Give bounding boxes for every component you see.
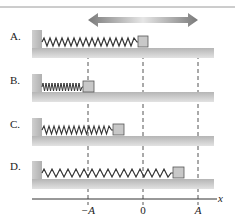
- floor: [32, 92, 214, 102]
- floor: [32, 179, 214, 189]
- floor: [32, 48, 214, 58]
- floor: [32, 136, 214, 146]
- x-axis: x −A 0 A: [32, 192, 223, 216]
- tick-minus-a: −A: [81, 204, 95, 216]
- block: [173, 167, 184, 178]
- row-b: B.: [10, 74, 214, 102]
- spring: [42, 83, 83, 91]
- spring: [42, 38, 138, 46]
- x-axis-label: x: [217, 192, 223, 204]
- row-label-a: A.: [10, 30, 21, 42]
- tick-zero: 0: [140, 204, 146, 216]
- double-headed-arrow-icon: [88, 13, 198, 27]
- spring: [42, 169, 173, 177]
- row-label-d: D.: [10, 160, 21, 172]
- row-c: C.: [10, 118, 214, 146]
- spring: [42, 126, 113, 134]
- tick-a: A: [194, 204, 202, 216]
- row-label-b: B.: [10, 74, 20, 86]
- block: [83, 81, 94, 92]
- block: [113, 124, 124, 135]
- spring-mass-diagram: A. B. C. D. x −A 0 A: [0, 0, 235, 224]
- block: [138, 36, 148, 47]
- row-a: A.: [10, 30, 214, 58]
- row-d: D.: [10, 160, 214, 189]
- row-label-c: C.: [10, 118, 20, 130]
